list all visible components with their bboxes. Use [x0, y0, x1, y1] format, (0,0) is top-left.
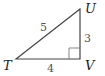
vertex-label-u: U: [85, 1, 97, 16]
triangle-tuv: [16, 9, 80, 59]
vertex-label-t: T: [3, 58, 13, 73]
vertex-label-v: V: [85, 58, 96, 73]
side-label-uv: 3: [84, 32, 91, 45]
side-label-tu: 5: [40, 21, 47, 34]
triangle-diagram: T U V 5 3 4: [0, 0, 105, 76]
side-label-tv: 4: [47, 62, 54, 75]
right-angle-marker: [69, 48, 80, 59]
